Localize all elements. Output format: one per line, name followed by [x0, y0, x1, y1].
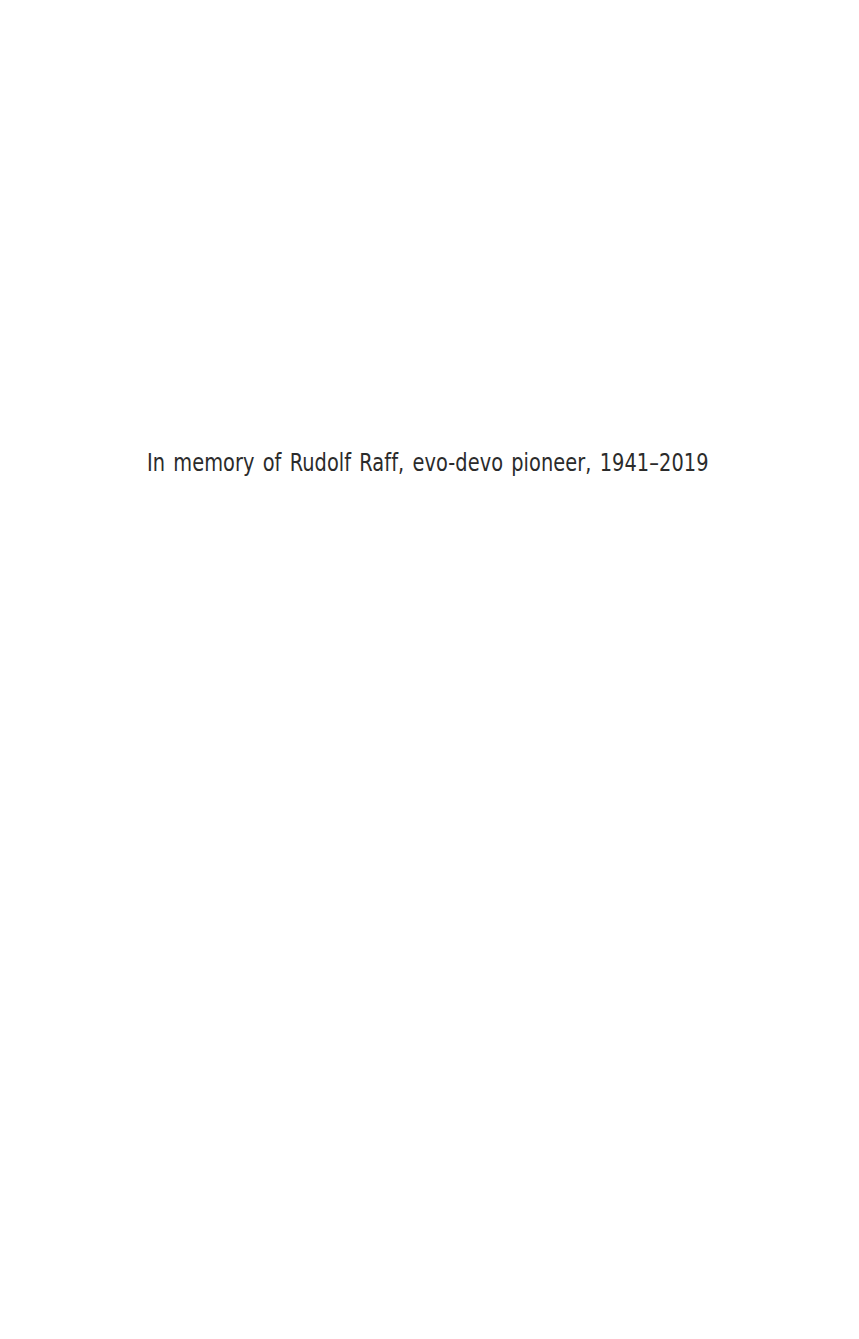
- dedication-text: In memory of Rudolf Raff, evo-devo pione…: [147, 448, 629, 478]
- dedication-block: In memory of Rudolf Raff, evo-devo pione…: [147, 448, 707, 478]
- page: In memory of Rudolf Raff, evo-devo pione…: [0, 0, 859, 1339]
